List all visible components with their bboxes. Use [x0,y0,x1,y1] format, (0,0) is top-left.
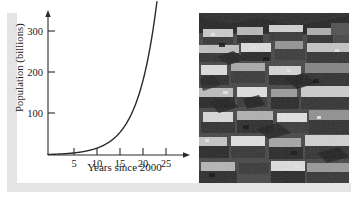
y-axis-arrowhead [45,10,50,17]
y-axis [45,10,50,155]
x-axis-arrowhead [183,152,190,157]
population-curve [48,2,157,155]
x-tick-marks [74,148,166,155]
aerial-photo-dense-housing [199,13,349,183]
y-tick-label-300: 300 [27,26,43,37]
y-tick-marks [48,31,55,113]
exponential-growth-chart: 300 200 100 5 10 15 20 25 Population (bi… [0,0,199,198]
photo-svg [199,13,349,183]
y-axis-title: Population (billions) [14,18,25,118]
y-tick-label-200: 200 [27,67,43,78]
y-tick-label-100: 100 [27,108,43,119]
x-axis-title: Years since 2000 [62,161,187,173]
population-growth-figure: 300 200 100 5 10 15 20 25 Population (bi… [0,0,358,198]
